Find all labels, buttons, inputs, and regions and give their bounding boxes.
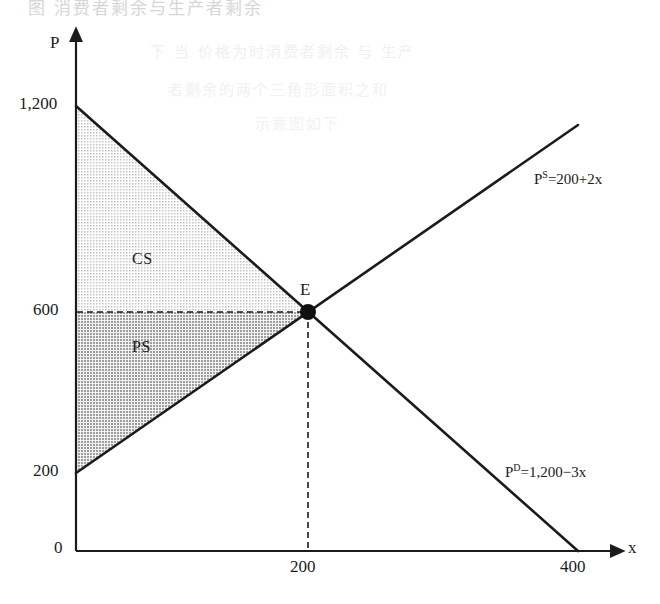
x-tick-label-200: 200 (290, 557, 316, 577)
x-tick-label-400: 400 (560, 557, 586, 577)
equilibrium-point-marker (300, 304, 316, 320)
x-axis-label: x (628, 538, 637, 558)
supply-demand-figure: 图 消费者剩余与生产者剩余 下 当 价格为时消费者剩余 与 生产 者剩余的两个三… (0, 0, 660, 604)
demand-curve-label: PD=1,200−3x (505, 464, 586, 481)
y-axis-label: P (50, 33, 59, 53)
producer-surplus-label: PS (132, 338, 151, 356)
demand-label-superscript: D (513, 462, 520, 473)
origin-label: 0 (54, 538, 63, 558)
y-tick-label-600: 600 (33, 300, 59, 320)
plot-canvas (0, 0, 660, 604)
y-tick-label-1200: 1,200 (19, 94, 57, 114)
y-tick-label-200: 200 (33, 461, 59, 481)
equilibrium-point-label: E (300, 280, 310, 300)
demand-label-equation: =1,200−3x (521, 464, 587, 480)
supply-label-equation: =200+2x (548, 171, 602, 187)
supply-curve-label: PS=200+2x (534, 171, 602, 188)
consumer-surplus-label: CS (132, 250, 153, 268)
